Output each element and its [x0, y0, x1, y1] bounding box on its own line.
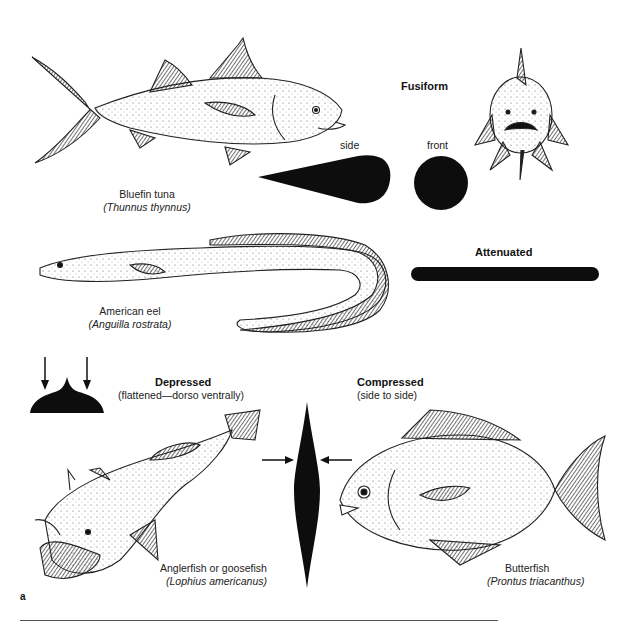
compressed-heading: Compressed — [357, 376, 424, 388]
eel-scientific-name: (Anguilla rostrata) — [55, 318, 205, 331]
eel-common-name: American eel — [55, 305, 205, 318]
panel-label: a — [20, 591, 26, 602]
tuna-common-name: Bluefin tuna — [72, 188, 222, 201]
butterfish-drawing — [340, 410, 605, 565]
fusiform-side-silhouette — [258, 155, 390, 203]
anglerfish-drawing — [35, 410, 260, 578]
butterfish-common-name: Butterfish — [505, 562, 549, 575]
tuna-front-view-drawing — [475, 48, 568, 180]
tuna-scientific-name: (Thunnus thynnus) — [72, 201, 222, 214]
butterfish-scientific-name: (Prontus triacanthus) — [487, 575, 584, 588]
bluefin-tuna-drawing — [32, 38, 345, 165]
depressed-subtitle: (flattened—dorso ventrally) — [118, 389, 244, 401]
attenuated-silhouette — [411, 267, 599, 281]
fusiform-front-silhouette — [414, 156, 468, 210]
bottom-rule-divider — [20, 620, 498, 621]
attenuated-heading: Attenuated — [475, 246, 532, 258]
fusiform-front-label: front — [427, 139, 448, 152]
compressed-silhouette — [294, 402, 320, 588]
depressed-silhouette — [30, 377, 104, 413]
depressed-heading: Depressed — [155, 376, 211, 388]
anglerfish-common-name: Anglerfish or goosefish — [160, 562, 267, 575]
depressed-silhouette-group — [30, 357, 104, 413]
compressed-silhouette-group — [262, 402, 352, 588]
compressed-subtitle: (side to side) — [357, 389, 417, 401]
fusiform-side-label: side — [340, 139, 359, 152]
fusiform-heading: Fusiform — [401, 80, 448, 92]
anglerfish-scientific-name: (Lophius americanus) — [166, 575, 267, 588]
